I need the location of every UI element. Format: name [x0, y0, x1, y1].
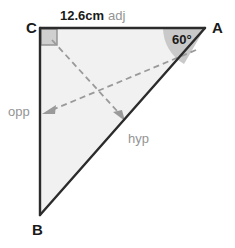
- trigonometry-figure: 12.6cm adj C A B 60° opp hyp: [0, 0, 235, 248]
- adjacent-side-label: 12.6cm adj: [60, 8, 125, 23]
- triangle-geometry-svg: [0, 0, 235, 248]
- adjacent-role-label: adj: [108, 8, 125, 23]
- vertex-label-a: A: [212, 20, 223, 35]
- hypotenuse-role-label: hyp: [128, 132, 149, 145]
- opposite-role-label: opp: [8, 105, 30, 118]
- vertex-label-c: C: [26, 20, 37, 35]
- angle-label-60: 60°: [172, 33, 192, 46]
- vertex-label-b: B: [32, 222, 43, 237]
- adjacent-measure-label: 12.6cm: [60, 8, 104, 23]
